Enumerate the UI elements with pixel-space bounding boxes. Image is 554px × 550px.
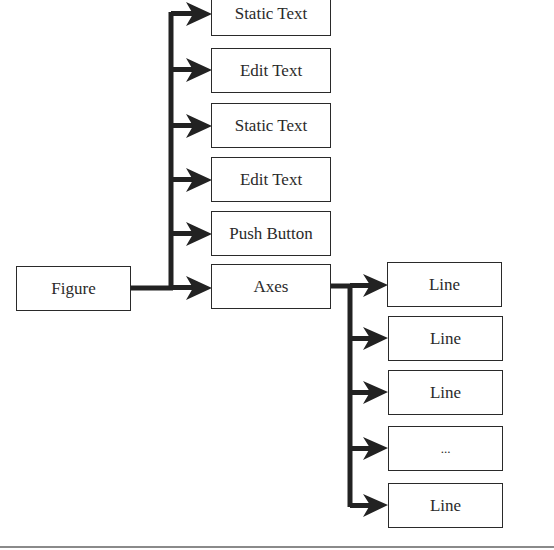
bottom-divider: [0, 546, 554, 548]
node-edit-text-1: Edit Text: [211, 48, 331, 93]
node-static-text-1: Static Text: [211, 0, 331, 36]
node-label: Line: [430, 496, 461, 516]
node-edit-text-2: Edit Text: [211, 157, 331, 202]
node-label: Line: [430, 383, 461, 403]
arrow-edit-text-1: [171, 58, 212, 82]
node-label: Push Button: [229, 224, 313, 244]
arrow-line-2: [350, 327, 388, 350]
node-ellipsis: ...: [388, 426, 503, 471]
node-line-1: Line: [387, 262, 502, 307]
arrow-static-text-1: [171, 2, 212, 26]
node-label: Edit Text: [240, 170, 302, 190]
node-label: Edit Text: [240, 61, 302, 81]
arrow-ellipsis: [350, 437, 388, 460]
node-line-2: Line: [388, 316, 503, 361]
arrow-edit-text-2: [171, 168, 212, 192]
node-label: Line: [429, 275, 460, 295]
node-label: Static Text: [235, 116, 308, 136]
node-axes: Axes: [211, 264, 331, 309]
arrow-line-5: [350, 494, 388, 517]
arrow-line-3: [350, 381, 388, 404]
node-line-3: Line: [388, 370, 503, 415]
node-label: Line: [430, 329, 461, 349]
node-label: Figure: [51, 279, 95, 299]
node-figure: Figure: [16, 266, 131, 311]
node-label: Axes: [254, 277, 289, 297]
arrow-axes: [171, 276, 212, 300]
node-label: ...: [441, 441, 451, 457]
arrow-static-text-2: [171, 114, 212, 138]
arrow-line-1: [350, 274, 388, 297]
arrow-push-button: [171, 222, 212, 246]
node-label: Static Text: [235, 4, 308, 24]
node-static-text-2: Static Text: [211, 103, 331, 148]
node-push-button: Push Button: [211, 211, 331, 256]
node-line-5: Line: [388, 483, 503, 528]
